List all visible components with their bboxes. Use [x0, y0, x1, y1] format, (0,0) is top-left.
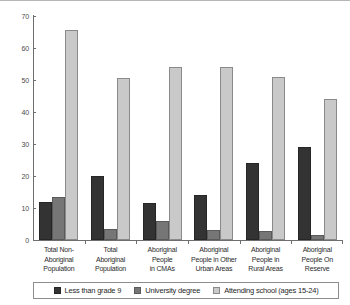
y-tick-value: 10 — [22, 205, 29, 212]
y-tick-value: 30 — [22, 141, 29, 148]
x-axis-label-line: Aboriginal — [137, 245, 187, 255]
bar — [220, 67, 233, 240]
bar — [169, 67, 182, 240]
bar — [311, 235, 324, 240]
x-axis-label-line: in CMAs — [137, 264, 187, 274]
x-axis-label-line: Aboriginal — [241, 245, 291, 255]
x-axis-label-line: Aboriginal — [34, 255, 84, 265]
y-tick-value: 40 — [22, 109, 29, 116]
y-tick-label: 30 — [22, 135, 33, 153]
x-tick-mark — [342, 240, 343, 244]
bar — [259, 231, 272, 240]
bar — [156, 221, 169, 240]
x-axis-label-line: People On — [292, 255, 342, 265]
y-tick-label: 70 — [22, 7, 33, 25]
x-axis-label: TotalAboriginalPopulation — [85, 245, 137, 274]
legend-swatch-icon — [134, 287, 141, 294]
x-axis-label-line: Aboriginal — [292, 245, 342, 255]
x-axis-label: AboriginalPeoplein CMAs — [136, 245, 188, 274]
chart-legend: Less than grade 9University degreeAttend… — [33, 282, 339, 299]
bar — [52, 197, 65, 240]
bar-group — [85, 16, 137, 240]
y-tick-label: 20 — [22, 167, 33, 185]
x-axis-label-line: People in — [241, 255, 291, 265]
bar — [246, 163, 259, 240]
bar — [91, 176, 104, 240]
legend-label: University degree — [145, 286, 200, 295]
bar — [39, 202, 52, 240]
x-axis-label-line: Rural Areas — [241, 264, 291, 274]
bar — [298, 147, 311, 240]
y-tick-value: 20 — [22, 173, 29, 180]
x-axis-label-line: Aboriginal — [86, 255, 136, 265]
x-axis-label-line: Population — [34, 264, 84, 274]
y-tick-value: 50 — [22, 77, 29, 84]
legend-swatch-icon — [213, 287, 220, 294]
x-tick-mark — [240, 240, 241, 244]
legend-swatch-icon — [54, 287, 61, 294]
bar — [194, 195, 207, 240]
x-axis-label: AboriginalPeople in OtherUrban Areas — [188, 245, 240, 274]
bar — [65, 30, 78, 240]
y-tick-label: 0 — [25, 231, 33, 249]
bar-group — [291, 16, 343, 240]
x-tick-mark — [85, 240, 86, 244]
x-axis-label-line: Total — [86, 245, 136, 255]
y-tick-value: 70 — [22, 13, 29, 20]
legend-label: Attending school (ages 15-24) — [224, 286, 318, 295]
x-axis-label: AboriginalPeople inRural Areas — [240, 245, 292, 274]
legend-item[interactable]: University degree — [134, 286, 200, 295]
x-axis-labels: Total Non-AboriginalPopulationTotalAbori… — [33, 245, 343, 274]
bar — [324, 99, 337, 240]
y-tick-label: 60 — [22, 39, 33, 57]
bar-group — [136, 16, 188, 240]
bar-group — [33, 16, 85, 240]
x-axis-label-line: People in Other — [189, 255, 239, 265]
bar — [272, 77, 285, 240]
bar — [117, 78, 130, 240]
bar-groups — [33, 16, 343, 240]
legend-label: Less than grade 9 — [65, 286, 122, 295]
y-tick-mark — [33, 240, 36, 241]
y-tick-label: 50 — [22, 71, 33, 89]
bar — [104, 229, 117, 240]
bar — [143, 203, 156, 240]
x-axis-label-line: Population — [86, 264, 136, 274]
y-tick-value: 60 — [22, 45, 29, 52]
x-axis-label-line: People — [137, 255, 187, 265]
legend-item[interactable]: Attending school (ages 15-24) — [213, 286, 318, 295]
bar-group — [188, 16, 240, 240]
bar — [207, 230, 220, 240]
x-tick-mark — [188, 240, 189, 244]
y-tick-label: 40 — [22, 103, 33, 121]
x-axis-label: AboriginalPeople OnReserve — [291, 245, 343, 274]
bar-group — [240, 16, 292, 240]
x-axis-label: Total Non-AboriginalPopulation — [33, 245, 85, 274]
legend-item[interactable]: Less than grade 9 — [54, 286, 122, 295]
x-axis-label-line: Reserve — [292, 264, 342, 274]
x-axis-label-line: Urban Areas — [189, 264, 239, 274]
chart-container: 010203040506070 Total Non-AboriginalPopu… — [0, 0, 350, 305]
x-axis-label-line: Aboriginal — [189, 245, 239, 255]
y-tick-label: 10 — [22, 199, 33, 217]
y-tick-value: 0 — [25, 237, 29, 244]
x-tick-mark — [291, 240, 292, 244]
x-tick-mark — [136, 240, 137, 244]
x-axis-label-line: Total Non- — [34, 245, 84, 255]
